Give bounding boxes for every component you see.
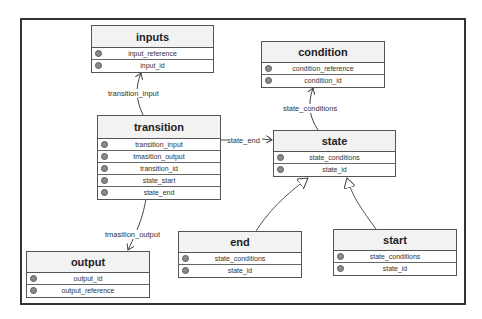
field-icon (265, 65, 272, 72)
field-name: output_reference (62, 287, 115, 294)
entity-title: condition (262, 42, 384, 63)
field-icon (95, 50, 102, 57)
field-row[interactable]: output_reference (27, 285, 149, 297)
field-name: state_id (322, 166, 347, 173)
entity-title: output (27, 252, 149, 273)
field-row[interactable]: state_start (98, 175, 220, 187)
field-name: state_id (383, 265, 408, 272)
field-name: input_id (140, 62, 165, 69)
entity-title: end (179, 232, 301, 253)
field-row[interactable]: state_id (179, 265, 301, 277)
field-name: condition_reference (292, 65, 354, 72)
field-icon (277, 154, 284, 161)
field-row[interactable]: state_id (334, 263, 456, 275)
field-name: state_conditions (309, 154, 360, 161)
field-icon (101, 177, 108, 184)
field-icon (265, 77, 272, 84)
field-name: transition_id (140, 165, 178, 172)
entity-title: transition (98, 116, 220, 139)
field-row[interactable]: state_id (274, 164, 395, 176)
field-icon (95, 62, 102, 69)
field-icon (277, 166, 284, 173)
field-icon (101, 153, 108, 160)
field-name: state_conditions (215, 255, 266, 262)
field-name: output_id (74, 275, 103, 282)
field-name: tmasition_output (133, 153, 184, 160)
edge-label-transition-input: transition_input (108, 89, 159, 98)
entity-transition[interactable]: transition transition_input tmasition_ou… (97, 115, 221, 200)
edge-label-transition-output: tmasition_output (105, 230, 160, 239)
entity-start[interactable]: start state_conditions state_id (333, 229, 457, 276)
entity-condition[interactable]: condition condition_reference condition_… (261, 41, 385, 88)
field-name: state_conditions (370, 253, 421, 260)
field-icon (101, 189, 108, 196)
edge-label-state-end: state_end (227, 136, 260, 145)
entity-end[interactable]: end state_conditions state_id (178, 231, 302, 278)
field-icon (182, 267, 189, 274)
field-icon (182, 255, 189, 262)
field-icon (30, 287, 37, 294)
field-row[interactable]: state_conditions (274, 152, 395, 164)
field-row[interactable]: input_reference (92, 48, 213, 60)
field-name: input_reference (128, 50, 177, 57)
field-name: state_end (144, 189, 175, 196)
field-icon (101, 141, 108, 148)
entity-title: start (334, 230, 456, 251)
field-icon (30, 275, 37, 282)
field-row[interactable]: input_id (92, 60, 213, 72)
entity-title: state (274, 131, 395, 152)
field-row[interactable]: condition_id (262, 75, 384, 87)
field-row[interactable]: condition_reference (262, 63, 384, 75)
field-row[interactable]: state_conditions (179, 253, 301, 265)
entity-output[interactable]: output output_id output_reference (26, 251, 150, 298)
entity-title: inputs (92, 26, 213, 48)
field-name: state_start (143, 177, 176, 184)
field-name: transition_input (135, 141, 182, 148)
field-name: condition_id (304, 77, 341, 84)
field-row[interactable]: output_id (27, 273, 149, 285)
field-row[interactable]: state_conditions (334, 251, 456, 263)
field-row[interactable]: state_end (98, 187, 220, 199)
field-row[interactable]: transition_input (98, 139, 220, 151)
field-icon (101, 165, 108, 172)
entity-state[interactable]: state state_conditions state_id (273, 130, 396, 177)
field-icon (337, 253, 344, 260)
field-row[interactable]: transition_id (98, 163, 220, 175)
edge-label-state-conditions: state_conditions (283, 104, 337, 113)
field-icon (337, 265, 344, 272)
field-name: state_id (228, 267, 253, 274)
entity-inputs[interactable]: inputs input_reference input_id (91, 25, 214, 73)
field-row[interactable]: tmasition_output (98, 151, 220, 163)
